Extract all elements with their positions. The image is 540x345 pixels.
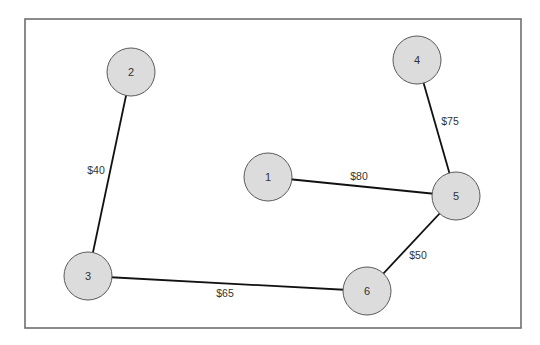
graph-node-5: 5 xyxy=(432,172,480,220)
edge-cost-label: $50 xyxy=(409,249,427,261)
edge-cost-label: $40 xyxy=(87,164,105,176)
graph-node-1: 1 xyxy=(244,153,292,201)
node-label: 3 xyxy=(85,270,91,282)
node-label: 5 xyxy=(453,190,459,202)
graph-node-4: 4 xyxy=(393,36,441,84)
edge-cost-label: $65 xyxy=(216,287,234,299)
node-label: 1 xyxy=(265,171,271,183)
node-label: 6 xyxy=(364,285,370,297)
edge-cost-label: $80 xyxy=(350,170,368,182)
node-label: 2 xyxy=(128,66,134,78)
graph-node-6: 6 xyxy=(343,267,391,315)
node-label: 4 xyxy=(414,54,420,66)
graph-diagram: $40$80$75$50$65 123456 xyxy=(0,0,540,345)
graph-node-2: 2 xyxy=(107,48,155,96)
edge-cost-label: $75 xyxy=(441,115,459,127)
graph-node-3: 3 xyxy=(64,252,112,300)
